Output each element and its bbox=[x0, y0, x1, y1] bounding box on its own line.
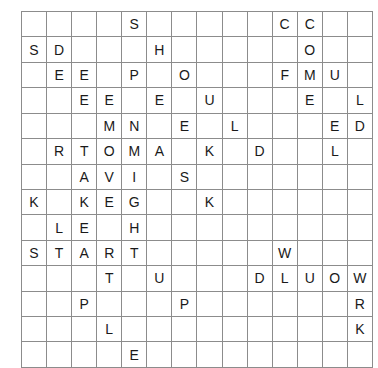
grid-row: LK bbox=[22, 317, 373, 342]
grid-cell-letter: O bbox=[172, 62, 197, 87]
grid-row: SCC bbox=[22, 12, 373, 37]
grid-cell-letter: D bbox=[247, 266, 272, 291]
grid-cell-empty bbox=[297, 164, 322, 189]
grid-cell-letter: P bbox=[72, 291, 97, 316]
grid-cell-empty bbox=[247, 291, 272, 316]
grid-cell-empty bbox=[272, 113, 297, 138]
grid-cell-letter: O bbox=[322, 266, 347, 291]
grid-cell-empty bbox=[22, 62, 47, 87]
grid-cell-letter: E bbox=[47, 62, 72, 87]
grid-cell-empty bbox=[147, 317, 172, 342]
grid-cell-letter: T bbox=[97, 266, 122, 291]
grid-cell-empty bbox=[72, 37, 97, 62]
grid-cell-empty bbox=[272, 317, 297, 342]
grid-cell-empty bbox=[97, 12, 122, 37]
grid-cell-empty bbox=[197, 215, 222, 240]
grid-cell-letter: E bbox=[72, 215, 97, 240]
grid-cell-letter: R bbox=[347, 291, 372, 316]
grid-cell-letter: P bbox=[172, 291, 197, 316]
grid-cell-empty bbox=[172, 240, 197, 265]
grid-cell-empty bbox=[222, 240, 247, 265]
grid-cell-empty bbox=[47, 291, 72, 316]
grid-cell-empty bbox=[272, 88, 297, 113]
grid-row: SDHO bbox=[22, 37, 373, 62]
grid-cell-empty bbox=[97, 37, 122, 62]
grid-cell-empty bbox=[322, 88, 347, 113]
grid-cell-empty bbox=[247, 62, 272, 87]
grid-cell-empty bbox=[97, 342, 122, 367]
grid-cell-letter: F bbox=[272, 62, 297, 87]
grid-cell-empty bbox=[47, 189, 72, 214]
grid-cell-empty bbox=[247, 164, 272, 189]
grid-cell-empty bbox=[222, 189, 247, 214]
grid-cell-empty bbox=[297, 291, 322, 316]
grid-cell-letter: E bbox=[97, 189, 122, 214]
grid-cell-letter: T bbox=[47, 240, 72, 265]
grid-cell-empty bbox=[47, 342, 72, 367]
grid-cell-empty bbox=[222, 291, 247, 316]
grid-cell-empty bbox=[197, 240, 222, 265]
grid-cell-letter: L bbox=[97, 317, 122, 342]
grid-cell-empty bbox=[197, 62, 222, 87]
grid-cell-empty bbox=[222, 88, 247, 113]
grid-cell-empty bbox=[247, 88, 272, 113]
grid-cell-letter: U bbox=[197, 88, 222, 113]
grid-cell-letter: T bbox=[122, 240, 147, 265]
grid-cell-empty bbox=[272, 342, 297, 367]
grid-cell-empty bbox=[297, 317, 322, 342]
grid-cell-empty bbox=[247, 317, 272, 342]
grid-cell-empty bbox=[222, 342, 247, 367]
grid-cell-empty bbox=[322, 164, 347, 189]
grid-cell-empty bbox=[22, 266, 47, 291]
grid-cell-letter: A bbox=[72, 240, 97, 265]
grid-cell-empty bbox=[347, 342, 372, 367]
grid-cell-letter: U bbox=[147, 266, 172, 291]
grid-cell-empty bbox=[222, 266, 247, 291]
grid-cell-empty bbox=[122, 291, 147, 316]
grid-cell-empty bbox=[272, 37, 297, 62]
grid-cell-empty bbox=[147, 189, 172, 214]
grid-cell-empty bbox=[22, 215, 47, 240]
grid-cell-empty bbox=[72, 342, 97, 367]
grid-cell-letter: H bbox=[122, 215, 147, 240]
grid-row: EEEUEL bbox=[22, 88, 373, 113]
grid-cell-empty bbox=[197, 113, 222, 138]
grid-cell-empty bbox=[172, 215, 197, 240]
grid-cell-empty bbox=[347, 240, 372, 265]
grid-cell-empty bbox=[322, 317, 347, 342]
grid-cell-empty bbox=[197, 37, 222, 62]
grid-cell-letter: C bbox=[272, 12, 297, 37]
grid-cell-empty bbox=[172, 317, 197, 342]
grid-cell-empty bbox=[222, 317, 247, 342]
grid-cell-empty bbox=[322, 37, 347, 62]
grid-cell-empty bbox=[22, 164, 47, 189]
grid-cell-empty bbox=[247, 215, 272, 240]
grid-cell-empty bbox=[272, 164, 297, 189]
grid-cell-letter: K bbox=[197, 139, 222, 164]
grid-cell-empty bbox=[347, 215, 372, 240]
grid-cell-empty bbox=[197, 12, 222, 37]
grid-cell-letter: O bbox=[297, 37, 322, 62]
grid-cell-empty bbox=[47, 113, 72, 138]
grid-cell-letter: L bbox=[322, 139, 347, 164]
word-search-grid: SCCSDHOEEPOFMUEEEUELMNELEDRTOMAKDLAVISKK… bbox=[21, 11, 373, 368]
grid-cell-empty bbox=[172, 189, 197, 214]
grid-cell-empty bbox=[322, 12, 347, 37]
grid-cell-empty bbox=[47, 266, 72, 291]
grid-cell-empty bbox=[222, 62, 247, 87]
grid-cell-letter: P bbox=[122, 62, 147, 87]
grid-row: E bbox=[22, 342, 373, 367]
grid-cell-letter: V bbox=[97, 164, 122, 189]
grid-cell-letter: H bbox=[147, 37, 172, 62]
grid-cell-letter: E bbox=[172, 113, 197, 138]
grid-cell-letter: S bbox=[172, 164, 197, 189]
grid-cell-empty bbox=[272, 215, 297, 240]
grid-cell-empty bbox=[172, 12, 197, 37]
grid-cell-empty bbox=[22, 88, 47, 113]
grid-cell-letter: L bbox=[222, 113, 247, 138]
grid-cell-empty bbox=[347, 139, 372, 164]
grid-cell-empty bbox=[347, 62, 372, 87]
grid-cell-empty bbox=[297, 139, 322, 164]
grid-row: AVIS bbox=[22, 164, 373, 189]
grid-cell-empty bbox=[222, 12, 247, 37]
